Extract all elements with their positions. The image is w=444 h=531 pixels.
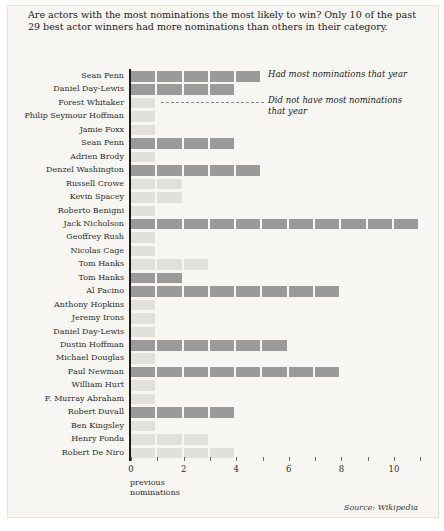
nomination-segment <box>236 367 260 378</box>
nomination-segment <box>157 84 181 95</box>
nomination-segment <box>315 286 339 297</box>
nomination-segment <box>131 206 155 217</box>
legend-connector-line <box>161 102 264 103</box>
actor-label: William Hurt <box>8 380 124 391</box>
nomination-segment <box>131 327 155 338</box>
nomination-segment <box>131 394 155 405</box>
nomination-bar <box>131 192 184 203</box>
nomination-bar <box>131 232 157 243</box>
nomination-segment <box>184 138 208 149</box>
x-axis-tick <box>315 457 316 461</box>
nomination-segment <box>131 340 155 351</box>
nomination-bar <box>131 165 262 176</box>
actor-row: F. Murray Abraham <box>8 394 439 405</box>
x-axis-tick-label: 6 <box>279 464 299 474</box>
actor-row: Jack Nicholson <box>8 219 439 230</box>
nomination-segment <box>184 407 208 418</box>
nomination-segment <box>184 219 208 230</box>
nomination-segment <box>131 434 155 445</box>
nomination-bar <box>131 327 157 338</box>
x-axis-tick <box>289 457 290 461</box>
nomination-segment <box>262 367 286 378</box>
actor-label: Philip Seymour Hoffman <box>8 111 124 122</box>
nomination-segment <box>210 219 234 230</box>
nomination-segment <box>184 71 208 82</box>
x-axis-label-line1: previous <box>130 478 180 488</box>
nomination-bar <box>131 394 157 405</box>
nomination-segment <box>157 179 181 190</box>
nomination-segment <box>131 98 155 109</box>
nomination-segment <box>210 340 234 351</box>
nomination-segment <box>341 219 365 230</box>
nomination-segment <box>157 448 181 459</box>
nomination-bar <box>131 259 210 270</box>
actor-row: Geoffrey Rush <box>8 232 439 243</box>
nomination-segment <box>131 380 155 391</box>
nomination-segment <box>131 421 155 432</box>
nomination-segment <box>262 219 286 230</box>
nomination-segment <box>262 340 286 351</box>
nomination-bar <box>131 380 157 391</box>
nomination-bar <box>131 125 157 136</box>
actor-label: Forest Whitaker <box>8 98 124 109</box>
nomination-segment <box>315 219 339 230</box>
actor-label: Jeremy Irons <box>8 313 124 324</box>
actor-label: Daniel Day-Lewis <box>8 84 124 95</box>
actor-label: Sean Penn <box>8 138 124 149</box>
actor-label: Geoffrey Rush <box>8 232 124 243</box>
legend-not-most-label: Did not have most nominations that year <box>268 95 418 117</box>
chart-background: Are actors with the most nominations the… <box>7 5 439 518</box>
actor-label: Henry Fonda <box>8 434 124 445</box>
nomination-segment <box>131 192 155 203</box>
nomination-segment <box>131 152 155 163</box>
nomination-segment <box>236 165 260 176</box>
actor-label: Roberto Benigni <box>8 206 124 217</box>
x-axis-tick-label: 2 <box>174 464 194 474</box>
x-axis-tick <box>394 457 395 461</box>
nomination-segment <box>157 434 181 445</box>
nomination-segment <box>131 165 155 176</box>
actor-row: Michael Douglas <box>8 353 439 364</box>
nomination-segment <box>368 219 392 230</box>
page-title: Are actors with the most nominations the… <box>28 9 428 33</box>
nomination-bar <box>131 206 157 217</box>
nomination-segment <box>131 300 155 311</box>
actor-label: Robert Duvall <box>8 407 124 418</box>
nomination-bar <box>131 179 184 190</box>
nomination-segment <box>131 448 155 459</box>
x-axis-tick <box>420 457 421 461</box>
nomination-segment <box>184 367 208 378</box>
nomination-segment <box>157 286 181 297</box>
x-axis-tick-label: 0 <box>121 464 141 474</box>
actor-row: Russell Crowe <box>8 179 439 190</box>
nomination-segment <box>184 84 208 95</box>
nomination-bar <box>131 286 341 297</box>
nomination-segment <box>289 367 313 378</box>
x-axis-tick <box>368 457 369 461</box>
nomination-segment <box>236 286 260 297</box>
nomination-segment <box>315 367 339 378</box>
actor-label: Michael Douglas <box>8 353 124 364</box>
actor-row: Roberto Benigni <box>8 206 439 217</box>
actor-label: Tom Hanks <box>8 273 124 284</box>
actor-row: Robert De Niro <box>8 448 439 459</box>
nomination-segment <box>184 434 208 445</box>
nomination-segment <box>131 273 155 284</box>
nomination-segment <box>210 367 234 378</box>
actor-label: Kevin Spacey <box>8 192 124 203</box>
actor-row: Jeremy Irons <box>8 313 439 324</box>
nomination-bar <box>131 246 157 257</box>
actor-label: Daniel Day-Lewis <box>8 327 124 338</box>
actor-label: Sean Penn <box>8 71 124 82</box>
nomination-segment <box>157 138 181 149</box>
x-axis-tick <box>341 457 342 461</box>
nomination-segment <box>157 273 181 284</box>
nomination-segment <box>131 219 155 230</box>
nomination-segment <box>157 407 181 418</box>
nomination-segment <box>157 259 181 270</box>
nomination-bar <box>131 71 262 82</box>
nomination-bar <box>131 84 236 95</box>
actor-label: Adrien Brody <box>8 152 124 163</box>
actor-row: Al Pacino <box>8 286 439 297</box>
actor-row: Denzel Washington <box>8 165 439 176</box>
